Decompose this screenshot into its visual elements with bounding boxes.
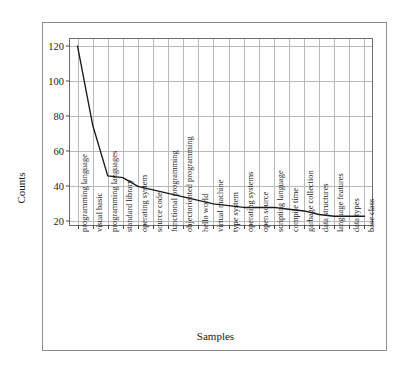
y-tick-mark xyxy=(66,151,70,152)
y-axis-label: Counts xyxy=(15,172,27,203)
x-tick-mark xyxy=(78,225,79,229)
x-tick-label: programming languages xyxy=(111,151,119,232)
x-tick-mark xyxy=(198,225,199,229)
x-tick-label: base class xyxy=(368,199,376,232)
top-cropped-text-strip: — —— — — —— ——— —— ——— — —— —— — xyxy=(0,0,409,14)
y-tick-mark xyxy=(66,81,70,82)
y-tick-label: 120 xyxy=(48,41,64,52)
x-tick-label: programming language xyxy=(81,154,89,232)
x-tick-mark xyxy=(108,225,109,229)
y-tick-mark xyxy=(66,46,70,47)
x-tick-label: standard library xyxy=(126,179,134,232)
x-tick-mark xyxy=(183,225,184,229)
x-tick-mark xyxy=(213,225,214,229)
x-tick-label: hello world xyxy=(202,194,210,232)
x-tick-mark xyxy=(123,225,124,229)
x-tick-mark xyxy=(259,225,260,229)
y-tick-label: 100 xyxy=(48,76,64,87)
x-tick-label: functional programming xyxy=(171,150,179,232)
x-tick-label: operating systems xyxy=(247,172,255,232)
x-tick-mark xyxy=(334,225,335,229)
x-tick-mark xyxy=(93,225,94,229)
x-tick-mark xyxy=(138,225,139,229)
x-tick-label: objectoriented programming xyxy=(186,136,194,232)
y-tick-label: 20 xyxy=(54,216,65,227)
figure-frame: Counts 20406080100120programming languag… xyxy=(42,22,387,351)
y-tick-label: 40 xyxy=(54,181,65,192)
x-tick-label: visual basic xyxy=(96,193,104,232)
x-tick-mark xyxy=(349,225,350,229)
x-tick-mark xyxy=(304,225,305,229)
plot-wrapper: Counts 20406080100120programming languag… xyxy=(43,23,388,352)
cropped-caption-text: — —— — — —— ——— —— ——— — —— —— — xyxy=(6,0,286,3)
x-tick-mark xyxy=(274,225,275,229)
x-tick-label: compile time xyxy=(292,188,300,232)
x-tick-label: operating system xyxy=(141,175,149,232)
y-tick-mark xyxy=(66,116,70,117)
x-tick-mark xyxy=(289,225,290,229)
x-tick-mark xyxy=(364,225,365,229)
x-tick-label: virtual machine xyxy=(217,180,225,232)
x-axis-label: Samples xyxy=(43,330,388,342)
x-tick-mark xyxy=(168,225,169,229)
y-tick-label: 80 xyxy=(54,111,65,122)
y-tick-label: 60 xyxy=(54,146,65,157)
x-tick-mark xyxy=(244,225,245,229)
x-tick-label: data structures xyxy=(322,183,330,232)
x-tick-label: source code xyxy=(156,192,164,232)
x-tick-label: open source xyxy=(262,192,270,232)
x-tick-label: language features xyxy=(337,173,345,232)
x-tick-label: garbage collection xyxy=(307,170,315,232)
y-tick-mark xyxy=(66,221,70,222)
plot-area: 20406080100120programming languagevisual… xyxy=(69,38,373,226)
y-tick-mark xyxy=(66,186,70,187)
x-tick-mark xyxy=(229,225,230,229)
x-tick-label: data types xyxy=(353,198,361,232)
x-tick-mark xyxy=(319,225,320,229)
x-tick-mark xyxy=(153,225,154,229)
x-tick-label: type system xyxy=(232,192,240,232)
x-tick-label: scripting language xyxy=(277,170,285,232)
